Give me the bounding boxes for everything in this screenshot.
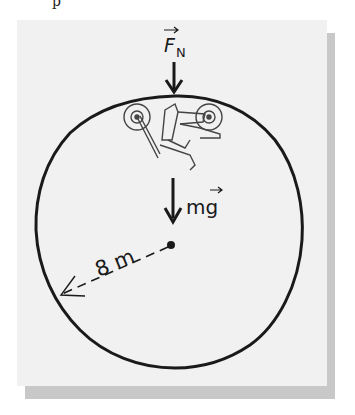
motorcycle-icon bbox=[124, 104, 222, 170]
vector-arrow-icon bbox=[164, 27, 178, 33]
normal-force-label: F N bbox=[164, 27, 186, 60]
radius-label: 8 m bbox=[92, 244, 139, 281]
loop-diagram: F N mg 8 m bbox=[0, 0, 355, 415]
svg-text:N: N bbox=[176, 45, 186, 60]
center-point bbox=[167, 241, 175, 249]
normal-force-arrow bbox=[166, 62, 182, 92]
weight-arrow bbox=[165, 178, 181, 222]
loop-track bbox=[36, 96, 302, 368]
weight-label: mg bbox=[186, 187, 222, 219]
svg-text:mg: mg bbox=[186, 195, 218, 219]
vector-arrow-icon bbox=[210, 187, 222, 193]
svg-text:F: F bbox=[164, 34, 176, 56]
